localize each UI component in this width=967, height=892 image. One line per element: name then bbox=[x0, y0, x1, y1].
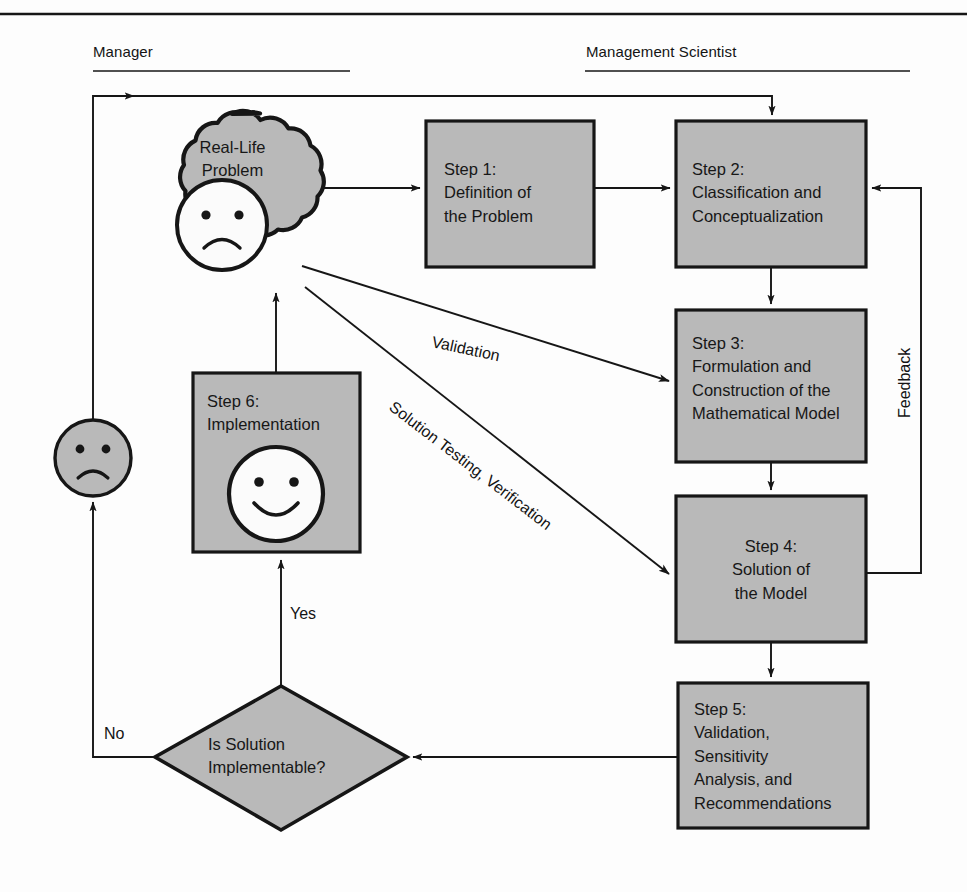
lane-header-management-scientist: Management Scientist bbox=[586, 43, 736, 60]
manager-sad-face-icon bbox=[55, 420, 131, 496]
cloud-label: Real-Life Problem bbox=[165, 136, 300, 183]
lane-header-manager: Manager bbox=[93, 43, 153, 60]
edge-label-feedback: Feedback bbox=[896, 348, 914, 418]
step4-label: Step 4: Solution of the Model bbox=[686, 535, 856, 605]
edge-validation bbox=[302, 266, 669, 381]
sad-face-icon bbox=[177, 180, 267, 270]
step5-label: Step 5: Validation, Sensitivity Analysis… bbox=[694, 698, 874, 815]
edge-decision-no-to-manager bbox=[93, 502, 155, 757]
edge-label-yes: Yes bbox=[290, 605, 316, 623]
step2-label: Step 2: Classification and Conceptualiza… bbox=[692, 158, 872, 228]
decision-label: Is Solution Implementable? bbox=[208, 733, 383, 780]
step3-label: Step 3: Formulation and Construction of … bbox=[692, 332, 872, 426]
step1-label: Step 1: Definition of the Problem bbox=[444, 158, 594, 228]
edge-label-no: No bbox=[104, 725, 124, 743]
step6-label: Step 6: Implementation bbox=[207, 390, 362, 437]
happy-face-icon bbox=[229, 447, 323, 541]
flowchart-figure: Manager Management Scientist Real-Life P… bbox=[0, 0, 967, 892]
